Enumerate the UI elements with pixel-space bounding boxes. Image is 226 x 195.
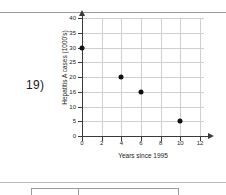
y-tick-label: 16 [69,89,76,95]
y-tick-label: 40 [69,15,76,21]
y-tick-label: 5 [73,118,76,124]
gridline-horizontal [82,33,204,34]
gridline-horizontal [82,18,204,19]
data-point [80,45,85,50]
data-point [178,119,183,124]
y-tick-label: 35 [69,30,76,36]
y-tick [78,77,82,78]
x-axis-title: Years since 1995 [80,152,206,159]
top-divider [0,12,226,13]
y-axis-line [82,14,83,140]
y-tick [78,62,82,63]
y-tick-label: 20 [69,74,76,80]
y-tick-label: 10 [69,104,76,110]
y-tick [78,33,82,34]
gridline-horizontal [82,121,204,122]
gridline-horizontal [82,107,204,108]
y-tick-label: 25 [69,59,76,65]
bottom-divider [0,182,226,183]
x-tick-label: 2 [100,140,103,146]
y-tick-label: 0 [73,133,76,139]
x-tick-label: 4 [120,140,123,146]
x-tick-label: 10 [177,140,184,146]
x-tick-label: 12 [197,140,204,146]
answer-table [31,188,179,195]
answer-table-cell-2 [79,189,178,195]
y-axis-title: Hepatitis A cases (1000's) [61,6,68,130]
answer-table-cell-1 [32,189,79,195]
gridline-horizontal [82,48,204,49]
data-point [139,89,144,94]
y-tick [78,121,82,122]
data-point [119,75,124,80]
x-tick-label: 0 [80,140,83,146]
question-number: 19) [26,78,44,92]
scatter-chart: Hepatitis A cases (1000's) Years since 1… [58,14,210,166]
x-tick-label: 6 [139,140,142,146]
gridline-horizontal [82,62,204,63]
y-tick [78,92,82,93]
y-axis-arrow-icon [79,10,85,16]
x-axis-arrow-icon [208,133,214,139]
y-tick-label: 30 [69,45,76,51]
plot-area: 0510162025303540 024681012 [82,18,204,140]
y-tick [78,107,82,108]
gridline-horizontal [82,77,204,78]
worksheet-page: 19) Hepatitis A cases (1000's) Years sin… [0,0,226,195]
x-tick-label: 8 [159,140,162,146]
y-tick [78,18,82,19]
